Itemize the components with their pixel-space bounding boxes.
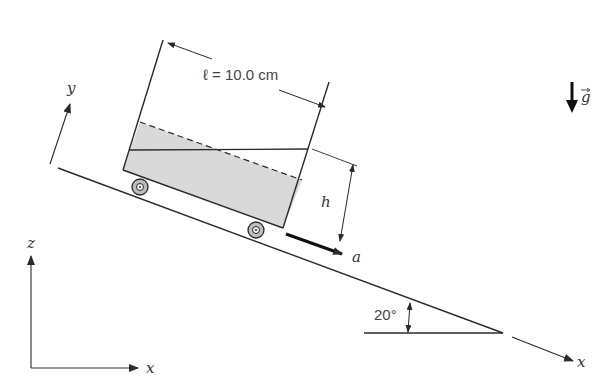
fixed-z-label: z [26,234,35,252]
incline-x-label: x [577,353,586,371]
acceleration-arrow: a [286,234,361,266]
length-dimension: ℓ = 10.0 cm [168,43,325,107]
incline-cart-diagram: 20° x y z x [0,0,613,392]
acceleration-label: a [352,248,361,266]
length-label: ℓ = 10.0 cm [203,66,278,83]
gravity-arrow: g [566,82,591,113]
height-label: h [321,193,331,211]
wheel-left [132,179,148,195]
incline-y-axis: y [50,79,76,164]
incline-y-label: y [66,79,76,97]
fixed-x-label: x [146,359,155,377]
wheel-right [248,222,264,238]
height-dimension: h [312,149,357,241]
liquid-body [123,122,302,228]
fixed-axes: z x [26,234,155,377]
angle-label: 20° [374,306,397,323]
incline-x-axis: x [512,337,586,371]
angle-indicator: 20° [374,303,410,332]
